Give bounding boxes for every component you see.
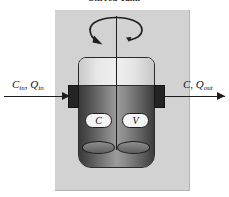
impeller-blade-left xyxy=(82,141,115,154)
outlet-flow-line xyxy=(162,96,225,97)
inlet-flow-line xyxy=(4,96,70,97)
outlet-flowrate-symbol: Q xyxy=(196,78,204,90)
rotation-arrow-icon xyxy=(84,16,148,46)
outlet-flowrate-subscript: out xyxy=(204,84,213,92)
concentration-tag: C xyxy=(85,113,112,128)
impeller-blade-right xyxy=(117,141,150,154)
figure-title: Stirred Tank xyxy=(0,0,229,3)
inlet-nozzle xyxy=(68,85,79,108)
inlet-concentration-subscript: in xyxy=(19,84,24,92)
outlet-arrow-icon xyxy=(217,92,225,100)
outlet-flow-label: C, Qout xyxy=(183,78,213,90)
outlet-nozzle xyxy=(154,85,165,108)
inlet-flow-label: Cin, Qin xyxy=(12,78,44,90)
impeller-assembly xyxy=(82,140,151,156)
volume-tag: V xyxy=(122,113,149,128)
stirred-tank-reactor-figure: Stirred Tank Cin, Qin C, Qout C V xyxy=(0,0,229,197)
inlet-flowrate-subscript: in xyxy=(38,84,43,92)
